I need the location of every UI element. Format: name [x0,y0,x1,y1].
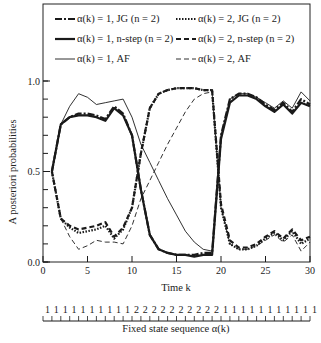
state-sequence: 1111111111222222222211111111111 [43,304,317,321]
sequence-value: 2 [134,304,139,315]
sequence-value: 2 [187,304,192,315]
sequence-value: 2 [161,304,166,315]
sequence-value: 1 [259,304,264,315]
sequence-value: 1 [98,304,103,315]
x-axis-title: Time k [161,282,191,293]
x-tick-label: 15 [172,265,182,276]
sequence-value: 2 [205,304,210,315]
legend-label: α(k) = 2, n-step (n = 2) [198,33,295,45]
sequence-value: 1 [223,304,228,315]
x-tick-label: 5 [85,265,90,276]
sequence-value: 1 [89,304,94,315]
y-tick-label: 0.5 [28,166,41,177]
sequence-value: 2 [170,304,175,315]
sequence-value: 1 [276,304,281,315]
state-sequence-label: Fixed state sequence α(k) [122,323,230,335]
sequence-value: 1 [72,304,77,315]
x-tick-label: 10 [127,265,137,276]
sequence-value: 1 [294,304,299,315]
legend: α(k) = 1, JG (n = 2)α(k) = 2, JG (n = 2)… [55,13,295,65]
x-tick-label: 25 [261,265,271,276]
sequence-value: 1 [241,304,246,315]
sequence-value: 1 [267,304,272,315]
sequence-value: 1 [232,304,237,315]
sequence-value: 1 [45,304,50,315]
sequence-value: 1 [107,304,112,315]
sequence-value: 1 [54,304,59,315]
sequence-value: 1 [116,304,121,315]
x-tick-label: 20 [216,265,226,276]
sequence-value: 2 [143,304,148,315]
x-tick-label: 0 [41,265,46,276]
sequence-value: 1 [250,304,255,315]
x-tick-label: 30 [305,265,315,276]
legend-label: α(k) = 2, AF [198,53,251,65]
sequence-value: 1 [303,304,308,315]
sequence-value: 1 [312,304,317,315]
legend-label: α(k) = 2, JG (n = 2) [198,13,281,25]
sequence-value: 1 [125,304,130,315]
y-axis: 0.00.51.0 [28,76,51,268]
sequence-value: 2 [178,304,183,315]
y-tick-label: 1.0 [28,76,41,87]
y-axis-title: A posteriori probabilities [7,120,18,225]
sequence-value: 2 [196,304,201,315]
series-line-2 [52,88,310,249]
sequence-value: 1 [81,304,86,315]
sequence-value: 1 [285,304,290,315]
x-axis: 051015202530 [41,256,316,276]
sequence-value: 1 [63,304,68,315]
sequence-value: 2 [214,304,219,315]
sequence-value: 2 [152,304,157,315]
legend-label: α(k) = 1, AF [77,53,130,65]
posterior-probability-chart: 0.00.51.0 051015202530 α(k) = 1, JG (n =… [0,0,321,343]
series-line-1 [52,94,310,255]
y-tick-label: 0.0 [28,257,41,268]
legend-label: α(k) = 1, JG (n = 2) [77,13,160,25]
series-group [52,88,310,256]
legend-label: α(k) = 1, n-step (n = 2) [77,33,174,45]
